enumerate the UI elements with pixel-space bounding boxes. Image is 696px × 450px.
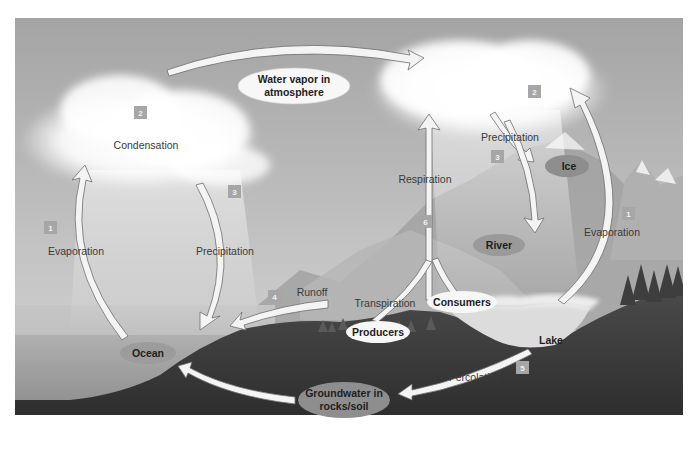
producers-label: Producers bbox=[352, 326, 404, 338]
node-consumers: Consumers bbox=[427, 291, 497, 313]
badge-number: 5 bbox=[520, 364, 525, 373]
badge-number: 3 bbox=[232, 188, 237, 197]
ocean-label: Ocean bbox=[132, 347, 164, 359]
node-lake: Lake bbox=[539, 334, 563, 346]
node-ice: Ice bbox=[545, 155, 589, 177]
water-vapor-label-line2: atmosphere bbox=[264, 86, 324, 98]
badge-number: 2 bbox=[138, 109, 143, 118]
node-groundwater: Groundwater in rocks/soil bbox=[298, 382, 390, 418]
lake-label: Lake bbox=[539, 334, 563, 346]
process-label: Transpiration bbox=[355, 297, 416, 309]
node-ocean: Ocean bbox=[120, 342, 176, 364]
process-label: Precipitation bbox=[481, 131, 539, 143]
groundwater-label-line2: rocks/soil bbox=[319, 400, 368, 412]
node-water-vapor: Water vapor in atmosphere bbox=[238, 68, 350, 104]
badge-number: 4 bbox=[272, 293, 277, 302]
water-vapor-label-line1: Water vapor in bbox=[258, 73, 331, 85]
node-producers: Producers bbox=[346, 321, 410, 343]
groundwater-label-line1: Groundwater in bbox=[305, 387, 383, 399]
process-label: Precipitation bbox=[196, 245, 254, 257]
process-label: Condensation bbox=[114, 139, 179, 151]
ice-label: Ice bbox=[562, 160, 577, 172]
badge-number: 2 bbox=[532, 88, 537, 97]
water-cycle-diagram: Water vapor in atmosphere Ocean Ice Rive… bbox=[0, 0, 696, 450]
badge-number: 3 bbox=[495, 153, 500, 162]
process-label: Percolation bbox=[449, 371, 502, 383]
process-condensation-right: 2 bbox=[528, 85, 541, 98]
badge-number: 1 bbox=[48, 224, 53, 233]
process-label: Evaporation bbox=[48, 245, 104, 257]
consumers-label: Consumers bbox=[433, 296, 491, 308]
node-river: River bbox=[473, 234, 525, 256]
badge-number: 6 bbox=[423, 218, 428, 227]
process-label: Respiration bbox=[398, 173, 451, 185]
process-label: Evaporation bbox=[584, 226, 640, 238]
process-transpiration: Transpiration bbox=[355, 297, 416, 309]
river-label: River bbox=[486, 239, 512, 251]
process-label: Runoff bbox=[297, 286, 328, 298]
badge-number: 1 bbox=[626, 210, 631, 219]
diagram-canvas: Water vapor in atmosphere Ocean Ice Rive… bbox=[0, 0, 696, 450]
